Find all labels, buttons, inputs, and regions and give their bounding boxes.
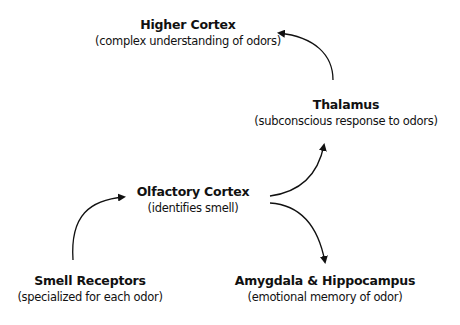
arrow-olfactory-to-thalamus (270, 145, 324, 196)
node-title: Thalamus (254, 97, 437, 113)
node-amygdala-hippocampus: Amygdala & Hippocampus (emotional memory… (235, 273, 416, 305)
node-olfactory-cortex: Olfactory Cortex (identifies smell) (137, 184, 250, 216)
node-title: Amygdala & Hippocampus (235, 273, 416, 289)
node-title: Smell Receptors (17, 273, 162, 289)
node-description: (identifies smell) (137, 200, 250, 216)
node-description: (subconscious response to odors) (254, 113, 437, 129)
node-description: (complex understanding of odors) (95, 33, 281, 49)
arrow-thalamus-to-higher (279, 33, 333, 80)
node-smell-receptors: Smell Receptors (specialized for each od… (17, 273, 162, 305)
node-description: (emotional memory of odor) (235, 289, 416, 305)
arrow-olfactory-to-amygdala (270, 203, 325, 262)
node-description: (specialized for each odor) (17, 289, 162, 305)
arrow-receptors-to-olfactory (73, 197, 124, 260)
node-title: Olfactory Cortex (137, 184, 250, 200)
node-higher-cortex: Higher Cortex (complex understanding of … (95, 17, 281, 49)
node-thalamus: Thalamus (subconscious response to odors… (254, 97, 437, 129)
node-title: Higher Cortex (95, 17, 281, 33)
